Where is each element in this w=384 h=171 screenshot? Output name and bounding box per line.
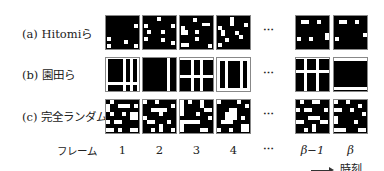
- frame-c-2: [143, 100, 176, 133]
- frame-a-1: [106, 16, 139, 49]
- frame-c-1: [106, 100, 139, 133]
- row-label-b: (b) 園田ら: [22, 66, 75, 82]
- frame-axis-label: フレーム: [57, 143, 97, 158]
- row-label-c: (c) 完全ランダム: [22, 108, 107, 124]
- time-arrow: 時刻: [311, 160, 362, 171]
- frame-b-4: [217, 58, 250, 91]
- frame-b-1: [106, 58, 139, 91]
- ellipsis-b: ⋯: [263, 67, 275, 80]
- frame-b-2: [143, 58, 176, 91]
- frame-c-beta: [334, 100, 367, 133]
- frame-b-beta-minus-1: [296, 58, 329, 91]
- frame-a-3: [180, 16, 213, 49]
- ellipsis-a: ⋯: [263, 24, 275, 37]
- frame-b-beta: [334, 58, 367, 91]
- frame-b-3: [180, 58, 213, 91]
- frame-label-ellipsis: ⋯: [263, 143, 275, 156]
- frame-a-4: [217, 16, 250, 49]
- time-label: 時刻: [340, 163, 362, 171]
- frame-a-beta-minus-1: [296, 16, 329, 49]
- frame-c-3: [180, 100, 213, 133]
- frame-label-3: 3: [180, 143, 213, 157]
- frame-c-beta-minus-1: [296, 100, 329, 133]
- frame-label-beta-minus-1: β−1: [296, 143, 329, 157]
- frame-label-beta: β: [334, 143, 367, 157]
- frame-a-2: [143, 16, 176, 49]
- frame-label-1: 1: [106, 143, 139, 157]
- frame-label-4: 4: [217, 143, 250, 157]
- frame-label-2: 2: [143, 143, 176, 157]
- frame-c-4: [217, 100, 250, 133]
- arrow-right-icon: [311, 170, 331, 171]
- row-label-a: (a) Hitomiら: [22, 25, 92, 41]
- frame-a-beta: [334, 16, 367, 49]
- ellipsis-c: ⋯: [263, 108, 275, 121]
